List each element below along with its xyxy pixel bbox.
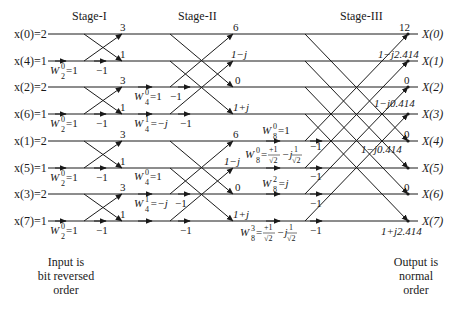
svg-text:=1: =1 [278,124,290,136]
twiddle-w8-0: W 0 8 =1 [262,122,290,141]
s1-result-5: 1 [120,155,126,167]
svg-text:√2: √2 [292,156,300,165]
svg-text:=1: =1 [66,171,78,183]
svg-text:2: 2 [61,232,65,241]
twiddle-w8-3: W 3 8 = +1 √2 −j 1 √2 [240,223,297,243]
svg-text:4: 4 [145,125,149,134]
s1-result-3: 1 [120,101,126,113]
twiddle-w4-0: W 0 4 =1 [134,88,162,107]
svg-text:−j: −j [282,148,292,160]
svg-text:=−j: =−j [150,117,168,129]
twiddle-w4-1: W 1 4 =−j [134,115,168,134]
s1-minus-one: −1 [96,224,108,236]
stage-3-labels: −1 −1 −1 −1 W 0 8 =1 W 0 8 = +1 √2 −j 1 … [240,21,422,243]
svg-text:1: 1 [294,145,298,154]
output-value-6: 0 [404,181,410,193]
input-x0: x(0)=2 [14,27,47,41]
stage-2-labels: 6 1−j 0 1+j 6 1−j 0 1+j −1 −1 −1 −1 W 0 … [134,21,249,236]
svg-text:1: 1 [145,115,149,124]
output-X1: X(1) [421,54,443,68]
svg-text:2: 2 [273,175,277,184]
svg-text:4: 4 [145,98,149,107]
twiddle-w2-0: W 0 2 =1 [50,169,78,188]
svg-text:order: order [53,283,78,297]
svg-text:2: 2 [61,125,65,134]
fft-flow-graph: Stage-I Stage-II Stage-III x(0)=2 x(4)=1… [0,0,464,310]
output-value-2: 0 [404,74,410,86]
svg-text:bit reversed: bit reversed [38,269,94,283]
svg-text:Input is: Input is [48,255,85,269]
s2-result-5: 1−j [224,155,240,167]
output-X3: X(3) [421,107,443,121]
svg-text:√2: √2 [287,234,295,243]
output-X6: X(6) [421,187,443,201]
svg-text:W: W [50,224,60,236]
output-caption: Output is normal order [394,255,439,297]
stage-1-label: Stage-I [72,9,107,23]
twiddle-w8-1: W 0 8 = +1 √2 −j 1 √2 [245,145,302,165]
svg-text:√2: √2 [264,234,272,243]
svg-text:1: 1 [145,195,149,204]
s1-minus-one: −1 [96,117,108,129]
svg-text:0: 0 [61,169,65,178]
output-X4: X(4) [421,134,443,148]
output-X5: X(5) [421,161,443,175]
svg-text:0: 0 [145,88,149,97]
s2-result-4: 6 [233,128,239,140]
s2-result-6: 0 [235,181,241,193]
svg-text:8: 8 [273,132,277,141]
svg-text:8: 8 [256,156,260,165]
svg-text:+1: +1 [269,145,278,154]
output-value-3: 1−j0.414 [374,97,415,109]
s2-result-7: 1+j [233,208,249,220]
input-x1: x(1)=2 [14,134,47,148]
svg-text:0: 0 [145,168,149,177]
s1-result-7: 1 [120,208,126,220]
twiddle-w4-1: W 1 4 =−j [134,195,168,214]
output-X7: X(7) [421,214,443,228]
s2-result-0: 6 [233,21,239,33]
svg-text:0: 0 [256,146,260,155]
twiddle-w2-0: W 0 2 =1 [50,222,78,241]
s3-minus-one: −1 [310,170,322,182]
output-value-4: 0 [404,128,410,140]
output-value-0: 12 [399,21,410,33]
s2-minus-one: −1 [175,197,187,209]
svg-text:−j: −j [277,226,287,238]
svg-text:normal: normal [399,269,434,283]
s3-minus-one: −1 [310,224,322,236]
s3-minus-one: −1 [310,140,322,152]
s1-minus-one: −1 [96,171,108,183]
twiddle-w2-0: W 0 2 =1 [50,115,78,134]
svg-text:+1: +1 [264,223,273,232]
input-x6: x(6)=1 [14,107,47,121]
svg-text:W: W [50,171,60,183]
output-X0: X(0) [421,27,443,41]
svg-text:=1: =1 [66,64,78,76]
output-value-7: 1+j2.414 [381,225,422,237]
svg-text:W: W [50,117,60,129]
s1-result-2: 3 [120,74,126,86]
stage-2-label: Stage-II [178,9,217,23]
svg-text:8: 8 [273,185,277,194]
svg-text:=: = [261,148,267,160]
svg-text:=1: =1 [66,117,78,129]
s1-result-6: 3 [120,181,126,193]
output-value-1: 1−j2.414 [378,48,419,60]
svg-text:=j: =j [278,177,288,189]
svg-text:1: 1 [289,223,293,232]
s2-minus-one: −1 [170,90,182,102]
input-x7: x(7)=1 [14,214,47,228]
svg-text:Output is: Output is [394,255,439,269]
twiddle-w4-0: W 0 4 =1 [134,168,162,187]
svg-text:8: 8 [251,234,255,243]
input-x2: x(2)=2 [14,80,47,94]
fft-butterfly-diagram: Stage-I Stage-II Stage-III x(0)=2 x(4)=1… [0,0,464,310]
svg-text:=1: =1 [150,90,162,102]
svg-text:=−j: =−j [150,197,168,209]
input-caption: Input is bit reversed order [38,255,94,297]
output-value-5: 1−j0.414 [361,143,402,155]
s2-result-3: 1+j [233,101,249,113]
s1-minus-one: −1 [96,64,108,76]
s2-result-1: 1−j [231,48,247,60]
